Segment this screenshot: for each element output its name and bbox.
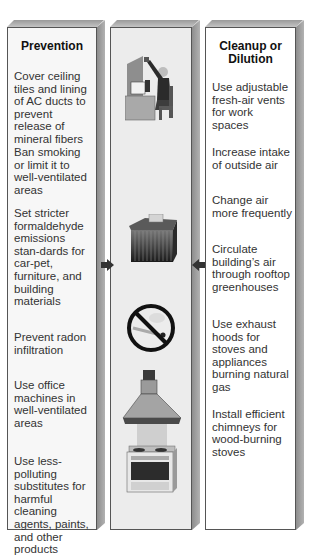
cleanup-heading-line2: Dilution bbox=[206, 53, 295, 66]
prevention-item: Ban smoking or limit it to well-ventilat… bbox=[14, 146, 93, 196]
prevention-item: Use less-polluting substitutes for harmf… bbox=[14, 455, 93, 556]
column-bevel-top bbox=[205, 20, 303, 27]
office-worker-icon bbox=[125, 50, 185, 122]
cleanup-dilution-column: Cleanup or Dilution Use adjustable fresh… bbox=[205, 27, 296, 530]
column-face bbox=[110, 27, 192, 530]
prevention-column: Prevention Cover ceiling tiles and linin… bbox=[7, 27, 97, 530]
illustration-column bbox=[110, 27, 192, 530]
cleanup-item: Install efficient chimneys for wood-burn… bbox=[212, 408, 292, 458]
no-smoking-icon bbox=[125, 302, 177, 354]
arrow-left-icon bbox=[192, 259, 205, 271]
building-materials-icon bbox=[125, 214, 181, 266]
prevention-heading: Prevention bbox=[8, 40, 96, 53]
cleanup-item: Increase intake of outside air bbox=[212, 146, 292, 171]
cleanup-item: Circulate building’s air through rooftop… bbox=[212, 243, 292, 293]
column-bevel-side bbox=[192, 20, 200, 530]
stove-exhaust-hood-icon bbox=[121, 370, 183, 494]
prevention-item: Cover ceiling tiles and lining of AC duc… bbox=[14, 70, 93, 146]
prevention-item: Prevent radon infiltration bbox=[14, 331, 93, 356]
prevention-item: Use office machines in well-ventilated a… bbox=[14, 379, 93, 429]
column-bevel-top bbox=[110, 20, 199, 27]
column-bevel-top bbox=[7, 20, 104, 27]
prevention-item: Set stricter formaldehyde emissions stan… bbox=[14, 207, 93, 308]
cleanup-item: Use exhaust hoods for stoves and applian… bbox=[212, 318, 292, 394]
cleanup-item: Use adjustable fresh-air vents for work … bbox=[212, 81, 292, 131]
column-bevel-side bbox=[296, 20, 304, 530]
column-face: Cleanup or Dilution Use adjustable fresh… bbox=[205, 27, 296, 530]
arrow-right-icon bbox=[101, 259, 114, 271]
column-bevel-side bbox=[97, 20, 105, 530]
cleanup-item: Change air more frequently bbox=[212, 194, 292, 219]
column-face: Prevention Cover ceiling tiles and linin… bbox=[7, 27, 97, 530]
